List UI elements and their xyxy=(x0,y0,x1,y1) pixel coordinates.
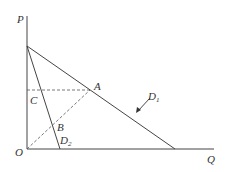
demand-diagram: P Q O A B C D1 D2 xyxy=(0,0,228,172)
point-label-c: C xyxy=(30,94,38,106)
curve-label-d1: D1 xyxy=(147,90,159,104)
axis-label-p: P xyxy=(16,13,24,25)
point-label-b: B xyxy=(57,121,64,133)
origin-label: O xyxy=(15,146,23,158)
curve-label-d2: D2 xyxy=(59,134,72,148)
axis-label-q: Q xyxy=(207,153,215,165)
point-label-a: A xyxy=(93,80,101,92)
